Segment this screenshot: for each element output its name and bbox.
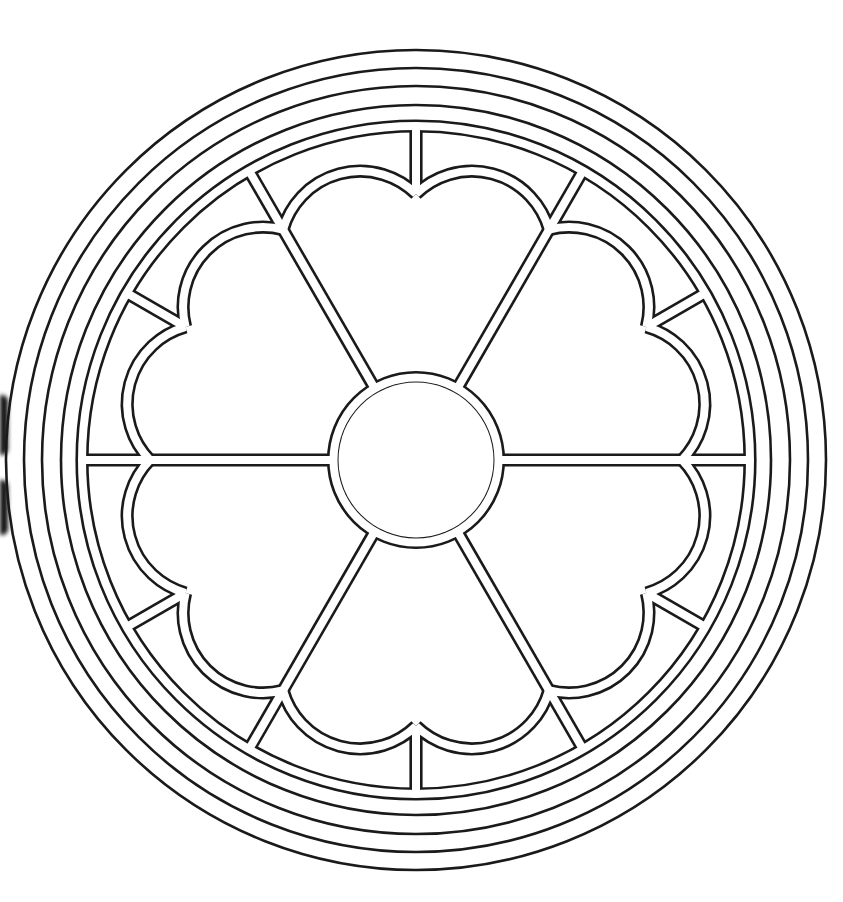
- lobe-fill: [283, 690, 416, 748]
- lobe-fill: [127, 327, 185, 460]
- hub-center: [339, 383, 494, 538]
- lobe-fill: [549, 227, 649, 327]
- lobe-fill: [416, 171, 549, 229]
- lobe-fill: [183, 227, 283, 327]
- lobe-fill: [283, 171, 416, 229]
- lobe-fill: [646, 460, 704, 593]
- spoke-fill: [249, 531, 375, 749]
- lobe-fill: [183, 593, 283, 693]
- inner-frame: [82, 126, 750, 794]
- lobe-2: [549, 227, 649, 327]
- lobe-fill: [416, 690, 549, 748]
- lobe-fill: [549, 593, 649, 693]
- spoke-fill: [457, 171, 583, 389]
- lobe-8: [183, 593, 283, 693]
- rose-window-drawing: [0, 0, 843, 902]
- lobe-fill: [646, 327, 704, 460]
- lobe-11: [549, 593, 649, 693]
- spoke-fill: [457, 531, 583, 749]
- lobe-fill: [127, 460, 185, 593]
- spoke-fill: [249, 171, 375, 389]
- lobe-5: [183, 227, 283, 327]
